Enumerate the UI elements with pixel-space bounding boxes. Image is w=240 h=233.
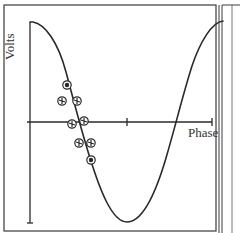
x-axis [27, 118, 212, 126]
marker-3 [73, 97, 81, 105]
y-axis-label: Volts [3, 34, 16, 61]
marker-6 [75, 139, 83, 147]
panel-border [4, 5, 216, 231]
marker-1 [63, 81, 71, 89]
marker-2 [58, 97, 66, 105]
marker-4 [68, 120, 76, 128]
marker-5 [80, 117, 88, 125]
marker-8 [87, 156, 95, 164]
marker-7 [87, 139, 95, 147]
diagram-frame: Volts Phase [0, 0, 240, 233]
diagram-canvas [0, 0, 240, 233]
x-axis-label: Phase [188, 126, 218, 139]
